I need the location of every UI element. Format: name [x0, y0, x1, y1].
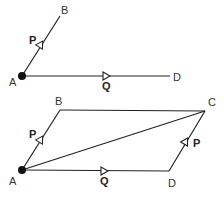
label-D-top: D — [173, 71, 181, 83]
label-B-bottom: B — [55, 95, 62, 107]
bottom-figure-parallelogram: A B C D P P Q — [9, 95, 216, 189]
arrowhead-Q-icon-top — [103, 72, 110, 80]
arrowhead-Q-bottom-icon — [101, 167, 108, 175]
label-B-top: B — [61, 4, 68, 16]
label-Q-top: Q — [102, 80, 111, 92]
label-C-bottom: C — [208, 96, 216, 108]
top-figure: A B D P Q — [9, 4, 181, 92]
side-BC — [60, 110, 205, 111]
label-Q-bottom: Q — [100, 175, 109, 187]
label-A-top: A — [9, 76, 17, 88]
point-A-dot-top — [18, 72, 26, 80]
label-D-bottom: D — [168, 177, 176, 189]
diagonal-AC — [22, 111, 205, 170]
label-P-top: P — [29, 34, 36, 46]
vector-parallelogram-diagram: A B D P Q A B C D P P Q — [0, 0, 224, 219]
label-P-right-bottom: P — [193, 137, 200, 149]
label-P-left-bottom: P — [29, 128, 36, 140]
side-AD — [22, 170, 169, 171]
point-A-dot-bottom — [18, 166, 26, 174]
label-A-bottom: A — [9, 175, 17, 187]
